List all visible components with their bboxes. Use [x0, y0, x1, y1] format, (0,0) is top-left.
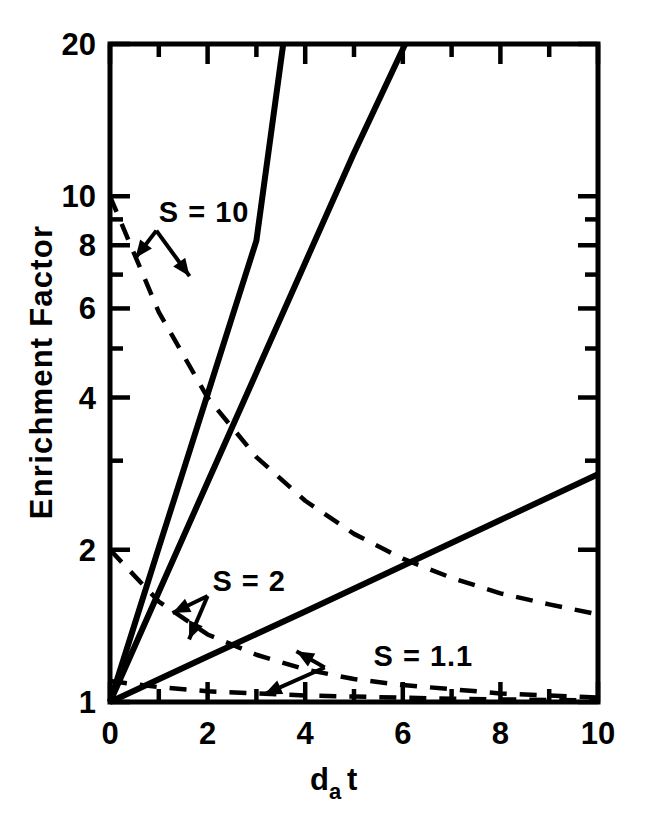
- y-tick-label: 10: [62, 179, 96, 214]
- y-tick-label: 2: [79, 533, 96, 568]
- x-tick-label: 6: [394, 716, 411, 751]
- x-axis-title-base: d: [310, 762, 330, 797]
- figure-container: 124681020 0246810 S = 10S = 2S = 1.1 Enr…: [0, 0, 645, 824]
- y-tick-label: 20: [62, 27, 96, 62]
- x-tick-label: 2: [199, 716, 216, 751]
- x-tick-label: 4: [297, 716, 315, 751]
- enrichment-factor-chart: 124681020 0246810 S = 10S = 2S = 1.1 Enr…: [0, 0, 645, 824]
- y-tick-label: 8: [79, 228, 96, 263]
- y-axis-title: Enrichment Factor: [24, 225, 59, 519]
- series-annotation-label: S = 1.1: [374, 640, 474, 672]
- y-tick-label: 1: [79, 685, 96, 720]
- y-tick-label: 4: [79, 381, 97, 416]
- x-tick-label: 0: [101, 716, 118, 751]
- series-annotation-label: S = 2: [212, 565, 286, 597]
- x-axis-title-tail: t: [347, 762, 359, 797]
- series-annotation-label: S = 10: [159, 196, 250, 228]
- x-tick-label: 10: [581, 716, 615, 751]
- x-axis-title-subscript: a: [329, 779, 342, 804]
- y-tick-label: 6: [79, 291, 96, 326]
- x-tick-label: 8: [492, 716, 509, 751]
